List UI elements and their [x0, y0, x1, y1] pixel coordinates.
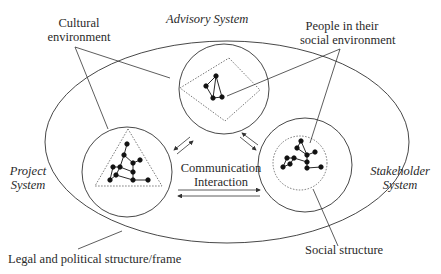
- communication-interaction-label: Communication Interaction: [176, 161, 266, 189]
- stakeholder-network: [281, 139, 323, 170]
- arrow-project-to-advisory: [177, 141, 193, 154]
- stakeholder-system-line2: System: [365, 178, 435, 192]
- people-line2: social environment: [300, 33, 384, 47]
- social-structure-pointer: [313, 189, 338, 246]
- people-social-environment-label: People in their social environment: [300, 19, 384, 47]
- stakeholder-system-circle: [258, 118, 352, 212]
- people-pointer-to-advisory: [227, 49, 340, 96]
- cultural-environment-label: Cultural environment: [34, 16, 124, 44]
- stakeholder-system-label: Stakeholder System: [365, 164, 435, 192]
- project-system-line2: System: [8, 178, 48, 192]
- cultural-environment-line2: environment: [34, 30, 124, 44]
- legal-pointer: [78, 231, 122, 249]
- advisory-network: [204, 74, 224, 100]
- advisory-system-circle: [179, 44, 269, 134]
- communication-line1: Communication: [176, 161, 266, 175]
- stakeholder-dotted-circle: [273, 136, 327, 190]
- cultural-pointer-to-advisory: [75, 47, 170, 78]
- arrow-advisory-to-stakeholder: [240, 137, 256, 150]
- project-system-label: Project System: [8, 164, 48, 192]
- communication-line2: Interaction: [176, 175, 266, 189]
- arrow-stakeholder-to-advisory: [242, 133, 258, 145]
- cultural-pointer-to-project: [75, 47, 108, 129]
- advisory-system-label: Advisory System: [166, 12, 248, 26]
- project-system-line1: Project: [8, 164, 48, 178]
- project-network: [108, 142, 150, 182]
- people-line1: People in their: [300, 19, 384, 33]
- legal-frame-label: Legal and political structure/frame: [8, 252, 181, 266]
- project-system-circle: [82, 127, 172, 217]
- social-structure-label: Social structure: [305, 243, 383, 257]
- arrow-advisory-to-project: [174, 137, 190, 150]
- cultural-environment-line1: Cultural: [34, 16, 124, 30]
- stakeholder-system-line1: Stakeholder: [365, 164, 435, 178]
- project-triangle: [95, 129, 162, 186]
- legal-frame-ellipse: [45, 41, 409, 243]
